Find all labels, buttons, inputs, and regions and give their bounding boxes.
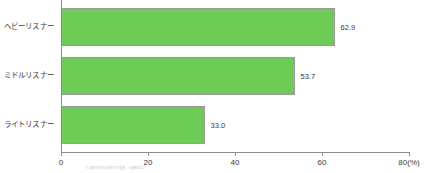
x-axis-tick-20 [148, 152, 149, 156]
x-axis-tick-label-40: 40 [231, 158, 240, 167]
bar-chart: ヘビーリスナー ミドルリスナー ライトリスナー 62.9 53.7 33.0 0… [0, 0, 432, 173]
bar-value-label-1: 53.7 [295, 72, 316, 81]
category-label-2: ライトリスナー [0, 118, 54, 129]
chart-footnote: ※調査対象別の聞き方の差異 ※複数回答 [86, 165, 143, 170]
x-axis-tick-40 [235, 152, 236, 156]
x-axis-tick-label-0: 0 [59, 158, 63, 167]
bar-heavy-listener [61, 8, 335, 46]
bar-light-listener [61, 106, 205, 144]
bar-value-label-0: 62.9 [335, 23, 356, 32]
category-label-1: ミドルリスナー [0, 69, 54, 80]
y-axis-line [61, 0, 62, 152]
x-axis-tick-60 [322, 152, 323, 156]
bar-middle-listener [61, 57, 295, 95]
x-axis-tick-0 [61, 152, 62, 156]
x-axis-tick-label-60: 60 [318, 158, 327, 167]
x-axis-tick-label-80: 80(%) [398, 158, 419, 167]
x-axis-tick-label-20: 20 [144, 158, 153, 167]
category-label-0: ヘビーリスナー [0, 20, 54, 31]
bar-value-label-2: 33.0 [205, 121, 226, 130]
x-axis-tick-80 [409, 152, 410, 156]
